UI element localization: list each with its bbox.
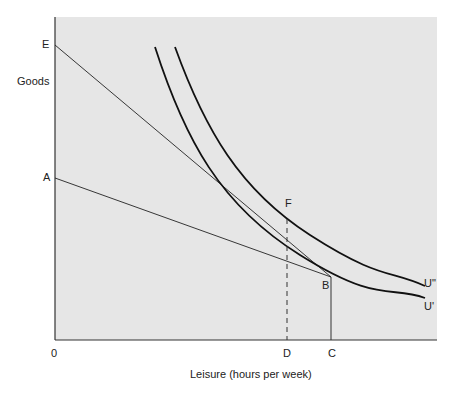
point-label-f: F <box>285 198 292 209</box>
budget-line-a <box>55 178 331 277</box>
point-label-e: E <box>42 39 49 50</box>
y-axis-label: Goods <box>17 76 49 87</box>
point-label-c: C <box>328 348 336 359</box>
point-label-b: B <box>322 280 329 291</box>
curve-label-u-double-prime: U" <box>424 278 436 289</box>
curve-label-u-prime: U' <box>424 301 434 312</box>
origin-label: 0 <box>51 348 57 359</box>
indifference-curve-u-prime <box>155 47 425 298</box>
point-label-d: D <box>283 348 291 359</box>
indifference-curve-u-double-prime <box>175 47 425 286</box>
point-label-a: A <box>43 172 50 183</box>
x-axis-label: Leisure (hours per week) <box>190 368 312 380</box>
diagram-canvas <box>0 0 453 397</box>
budget-line-e <box>55 45 331 277</box>
